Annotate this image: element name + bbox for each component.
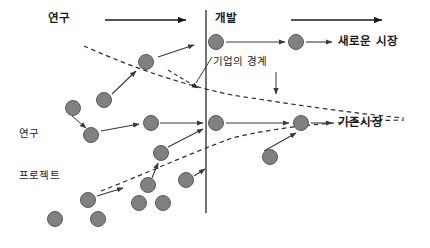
research-project-label-line2: 프로젝트 [19, 168, 60, 182]
project-node-bottom-left [81, 193, 96, 208]
project-node-boundary-upper [209, 116, 224, 131]
stage-label-development: 개발 [215, 12, 237, 25]
market-node-new [289, 35, 304, 50]
corporate-boundary-label: 기업의 경계 [213, 55, 268, 68]
research-project-label: 연구 프로젝트 [19, 98, 60, 210]
arrow-node1-to-boundary-up [158, 45, 194, 57]
arrow-node11-to-boundary [168, 129, 203, 147]
research-project-label-line1: 연구 [19, 126, 60, 140]
market-node-existing [294, 116, 309, 131]
project-node-lower-c [132, 196, 147, 211]
project-node-left-upper [97, 93, 112, 108]
project-node-below-boundary [263, 150, 278, 165]
arrow-node13-to-boundary [194, 169, 205, 176]
project-node-center-row [144, 116, 159, 131]
arrow-node4-to-node5 [101, 124, 139, 131]
arrow-node2-to-node1 [112, 71, 136, 94]
stage-label-research: 연구 [48, 12, 70, 25]
project-node-lower-b [179, 173, 194, 188]
arrow-project-label-pointer [72, 116, 86, 128]
boundary-leader-line [196, 57, 212, 83]
project-node-dev-top [209, 35, 224, 50]
project-node-funnel-mid [154, 146, 169, 161]
arrow-bottom-left-to-curve [97, 188, 123, 196]
project-node-left-mid [66, 101, 81, 116]
project-node-left-lower [84, 128, 99, 143]
connector-arrow-group [72, 42, 332, 196]
upper-curve-inflow-arrow [168, 70, 198, 88]
project-node-lower-a [141, 178, 156, 193]
project-node-bottom-a [48, 212, 63, 227]
arrow-node10-to-node7 [264, 133, 296, 151]
project-node-upper-mid [139, 55, 154, 70]
new-market-label: 새로운 시장 [338, 35, 398, 48]
existing-market-label: 기존시장 [338, 116, 383, 129]
arrow-node12-to-node11 [152, 163, 158, 178]
diagram-canvas: 연구 개발 기업의 경계 연구 프로젝트 새로운 시장 기존시장 [0, 0, 430, 248]
project-node-bottom-b [91, 212, 106, 227]
project-node-lower-d [156, 196, 171, 211]
